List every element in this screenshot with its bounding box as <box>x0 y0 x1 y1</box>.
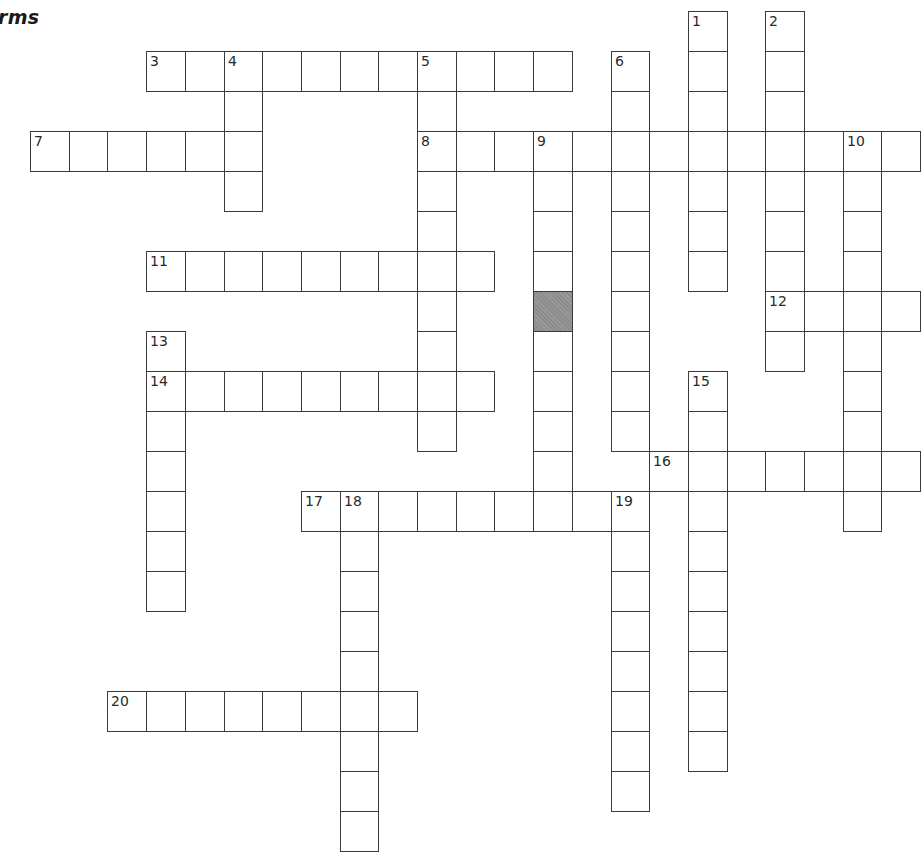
grid-cell[interactable] <box>456 251 495 292</box>
grid-cell[interactable] <box>107 131 147 172</box>
grid-cell[interactable] <box>688 691 728 732</box>
grid-cell[interactable]: 7 <box>30 131 70 172</box>
grid-cell[interactable]: 4 <box>224 51 263 92</box>
grid-cell[interactable] <box>340 531 379 572</box>
grid-cell[interactable] <box>611 531 650 572</box>
grid-cell[interactable] <box>533 491 573 532</box>
grid-cell[interactable] <box>185 251 225 292</box>
grid-cell[interactable] <box>417 211 457 252</box>
grid-cell[interactable] <box>494 131 534 172</box>
grid-cell[interactable] <box>262 371 302 412</box>
grid-cell[interactable] <box>340 51 379 92</box>
grid-cell[interactable] <box>843 411 882 452</box>
grid-cell[interactable] <box>340 251 379 292</box>
grid-cell[interactable] <box>688 171 728 212</box>
grid-cell[interactable] <box>417 251 457 292</box>
grid-cell[interactable] <box>301 371 341 412</box>
grid-cell[interactable]: 3 <box>146 51 186 92</box>
grid-cell[interactable] <box>262 251 302 292</box>
grid-cell[interactable] <box>378 491 418 532</box>
grid-cell[interactable] <box>301 51 341 92</box>
grid-cell[interactable] <box>146 491 186 532</box>
grid-cell[interactable] <box>765 131 805 172</box>
grid-cell[interactable] <box>881 291 921 332</box>
grid-cell[interactable] <box>224 691 263 732</box>
grid-cell[interactable] <box>417 91 457 132</box>
grid-cell[interactable] <box>611 291 650 332</box>
grid-cell[interactable] <box>611 171 650 212</box>
grid-cell[interactable] <box>688 131 728 172</box>
grid-cell[interactable] <box>765 331 805 372</box>
grid-cell[interactable] <box>611 91 650 132</box>
grid-cell[interactable] <box>417 331 457 372</box>
grid-cell[interactable] <box>378 691 418 732</box>
grid-cell[interactable] <box>417 291 457 332</box>
grid-cell[interactable]: 6 <box>611 51 650 92</box>
grid-cell[interactable] <box>146 451 186 492</box>
grid-cell[interactable] <box>688 211 728 252</box>
grid-cell[interactable] <box>224 131 263 172</box>
grid-cell[interactable] <box>881 131 921 172</box>
grid-cell[interactable] <box>572 131 612 172</box>
grid-cell[interactable] <box>611 731 650 772</box>
grid-cell[interactable] <box>533 251 573 292</box>
grid-cell[interactable] <box>611 411 650 452</box>
grid-cell[interactable] <box>224 171 263 212</box>
grid-cell[interactable] <box>533 411 573 452</box>
grid-cell[interactable] <box>688 51 728 92</box>
grid-cell[interactable] <box>843 451 882 492</box>
grid-cell[interactable] <box>224 91 263 132</box>
grid-cell[interactable] <box>224 371 263 412</box>
grid-cell[interactable] <box>688 731 728 772</box>
grid-cell[interactable]: 16 <box>649 451 689 492</box>
grid-cell[interactable]: 20 <box>107 691 147 732</box>
grid-cell[interactable] <box>533 211 573 252</box>
grid-cell[interactable] <box>224 251 263 292</box>
grid-cell[interactable]: 13 <box>146 331 186 372</box>
grid-cell[interactable] <box>843 291 882 332</box>
grid-cell[interactable]: 5 <box>417 51 457 92</box>
grid-cell[interactable]: 19 <box>611 491 650 532</box>
grid-cell[interactable] <box>301 691 341 732</box>
grid-cell[interactable] <box>727 131 766 172</box>
grid-cell[interactable] <box>456 371 495 412</box>
grid-cell[interactable] <box>843 171 882 212</box>
grid-cell[interactable] <box>611 771 650 812</box>
grid-cell[interactable]: 11 <box>146 251 186 292</box>
grid-cell[interactable] <box>185 51 225 92</box>
grid-cell[interactable] <box>146 571 186 612</box>
grid-cell[interactable] <box>611 251 650 292</box>
grid-cell[interactable] <box>417 371 457 412</box>
grid-cell[interactable] <box>611 211 650 252</box>
grid-cell[interactable] <box>765 51 805 92</box>
grid-cell[interactable]: 12 <box>765 291 805 332</box>
grid-cell[interactable] <box>688 651 728 692</box>
grid-cell[interactable]: 2 <box>765 11 805 52</box>
grid-cell[interactable]: 18 <box>340 491 379 532</box>
grid-cell[interactable] <box>804 451 844 492</box>
grid-cell[interactable] <box>494 491 534 532</box>
grid-cell[interactable] <box>262 51 302 92</box>
grid-cell[interactable] <box>378 371 418 412</box>
grid-cell[interactable] <box>572 491 612 532</box>
grid-cell[interactable] <box>185 131 225 172</box>
grid-cell[interactable] <box>533 451 573 492</box>
grid-cell[interactable] <box>533 371 573 412</box>
grid-cell[interactable] <box>340 611 379 652</box>
grid-cell[interactable] <box>456 51 495 92</box>
grid-cell[interactable] <box>688 251 728 292</box>
grid-cell[interactable] <box>611 331 650 372</box>
grid-cell[interactable] <box>185 371 225 412</box>
grid-cell[interactable] <box>456 131 495 172</box>
grid-cell[interactable] <box>340 691 379 732</box>
grid-cell[interactable] <box>146 411 186 452</box>
grid-cell[interactable] <box>765 451 805 492</box>
grid-cell[interactable] <box>417 491 457 532</box>
grid-cell[interactable] <box>533 171 573 212</box>
grid-cell[interactable] <box>340 371 379 412</box>
grid-cell[interactable] <box>611 571 650 612</box>
grid-cell[interactable]: 8 <box>417 131 457 172</box>
grid-cell[interactable] <box>456 491 495 532</box>
grid-cell[interactable] <box>843 251 882 292</box>
grid-cell[interactable] <box>688 571 728 612</box>
